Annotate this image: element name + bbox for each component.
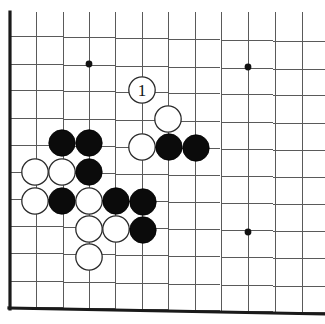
go-board-canvas: 1 <box>0 0 325 324</box>
stone-move-number-label: 1 <box>138 81 147 100</box>
white-stone <box>22 188 48 214</box>
white-stone <box>22 159 48 185</box>
go-board-diagram: 1 <box>0 0 325 324</box>
black-stone <box>183 135 209 161</box>
black-stone <box>130 189 156 215</box>
star-point-lower-right-icon <box>245 229 252 236</box>
black-stone <box>156 134 182 160</box>
white-stone <box>129 134 155 160</box>
black-stone <box>76 130 102 156</box>
white-stone <box>155 106 181 132</box>
white-stone <box>76 188 102 214</box>
white-stone <box>76 216 102 242</box>
black-stone <box>130 217 156 243</box>
black-stone <box>103 188 129 214</box>
white-stone <box>103 216 129 242</box>
star-point-right-icon <box>245 64 252 71</box>
white-stone <box>76 244 102 270</box>
black-stone <box>49 188 75 214</box>
star-point-left-icon <box>86 61 93 68</box>
board-bottom-edge <box>9 308 325 314</box>
white-stone <box>49 159 75 185</box>
black-stone <box>76 159 102 185</box>
black-stone <box>49 130 75 156</box>
